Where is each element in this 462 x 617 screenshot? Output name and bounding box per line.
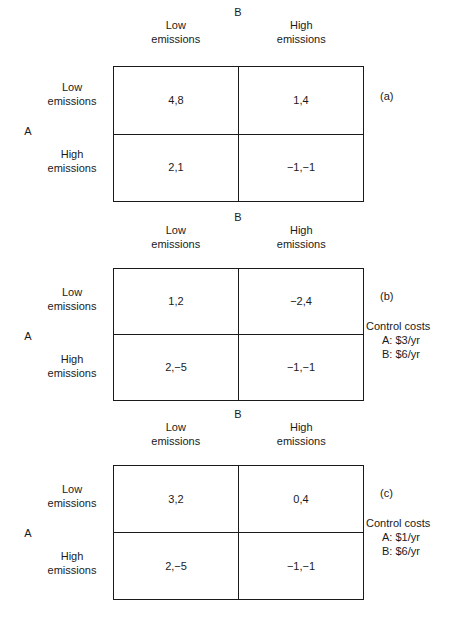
panel-caption-a: (a) bbox=[380, 90, 440, 103]
payoff-grid-b: 1,2 −2,4 2,−5 −1,−1 bbox=[113, 268, 364, 401]
row-header-line1: Low bbox=[38, 483, 106, 497]
payoff-grid-c: 3,2 0,4 2,−5 −1,−1 bbox=[113, 465, 364, 600]
column-header-line2: emissions bbox=[113, 435, 239, 449]
row-header-low-emissions-b: Low emissions bbox=[38, 286, 106, 313]
column-header-line2: emissions bbox=[239, 238, 365, 252]
table-row: 2,−5 −1,−1 bbox=[114, 335, 363, 400]
row-header-high-emissions-a: High emissions bbox=[38, 148, 106, 175]
row-header-high-emissions-c: High emissions bbox=[38, 550, 106, 577]
row-header-line1: High bbox=[38, 353, 106, 367]
payoff-cell-a-high-low: 2,1 bbox=[114, 135, 239, 202]
row-header-high-emissions-b: High emissions bbox=[38, 353, 106, 380]
table-row: 4,8 1,4 bbox=[114, 67, 363, 135]
row-header-line2: emissions bbox=[38, 300, 106, 314]
column-headers-b: Low emissions High emissions bbox=[113, 224, 364, 251]
payoff-cell-b-low-high: −2,4 bbox=[239, 269, 363, 334]
row-header-line1: Low bbox=[38, 286, 106, 300]
payoff-cell-c-low-high: 0,4 bbox=[239, 466, 363, 532]
column-header-line2: emissions bbox=[113, 238, 239, 252]
column-header-high-emissions-b: High emissions bbox=[239, 224, 365, 251]
row-header-line2: emissions bbox=[38, 162, 106, 176]
column-player-label-b: B bbox=[213, 211, 263, 224]
payoff-cell-a-low-low: 4,8 bbox=[114, 67, 239, 134]
control-costs-player-a: A: $1/yr bbox=[366, 530, 462, 544]
control-costs-c: Control costs A: $1/yr B: $6/yr bbox=[366, 516, 462, 558]
control-costs-title: Control costs bbox=[366, 319, 462, 333]
row-header-low-emissions-a: Low emissions bbox=[38, 81, 106, 108]
column-header-high-emissions-c: High emissions bbox=[239, 421, 365, 448]
payoff-cell-b-low-low: 1,2 bbox=[114, 269, 239, 334]
table-row: 2,1 −1,−1 bbox=[114, 135, 363, 202]
row-player-label-a: A bbox=[18, 125, 38, 138]
row-header-line2: emissions bbox=[38, 367, 106, 381]
payoff-cell-c-high-low: 2,−5 bbox=[114, 533, 239, 599]
control-costs-player-a: A: $3/yr bbox=[366, 333, 462, 347]
row-header-line1: Low bbox=[38, 81, 106, 95]
column-headers-a: Low emissions High emissions bbox=[113, 19, 364, 46]
control-costs-title: Control costs bbox=[366, 516, 462, 530]
row-header-line2: emissions bbox=[38, 95, 106, 109]
column-headers-c: Low emissions High emissions bbox=[113, 421, 364, 448]
column-header-low-emissions-c: Low emissions bbox=[113, 421, 239, 448]
row-header-line1: High bbox=[38, 148, 106, 162]
payoff-cell-c-high-high: −1,−1 bbox=[239, 533, 363, 599]
row-header-low-emissions-c: Low emissions bbox=[38, 483, 106, 510]
row-header-line2: emissions bbox=[38, 564, 106, 578]
table-row: 1,2 −2,4 bbox=[114, 269, 363, 335]
panel-caption-b: (b) bbox=[380, 290, 440, 303]
row-header-line1: High bbox=[38, 550, 106, 564]
control-costs-player-b: B: $6/yr bbox=[366, 347, 462, 361]
column-header-line1: Low bbox=[113, 19, 239, 33]
table-row: 2,−5 −1,−1 bbox=[114, 533, 363, 599]
payoff-cell-a-high-high: −1,−1 bbox=[239, 135, 363, 202]
column-header-line2: emissions bbox=[113, 33, 239, 47]
row-player-label-c: A bbox=[18, 527, 38, 540]
column-header-low-emissions-a: Low emissions bbox=[113, 19, 239, 46]
column-player-label-c: B bbox=[213, 408, 263, 421]
column-header-high-emissions-a: High emissions bbox=[239, 19, 365, 46]
panel-caption-c: (c) bbox=[380, 487, 440, 500]
payoff-matrix-figure: B Low emissions High emissions A Low emi… bbox=[0, 0, 462, 617]
column-header-low-emissions-b: Low emissions bbox=[113, 224, 239, 251]
payoff-cell-b-high-high: −1,−1 bbox=[239, 335, 363, 400]
row-header-line2: emissions bbox=[38, 497, 106, 511]
column-header-line2: emissions bbox=[239, 435, 365, 449]
payoff-cell-c-low-low: 3,2 bbox=[114, 466, 239, 532]
column-header-line1: High bbox=[239, 421, 365, 435]
column-header-line1: High bbox=[239, 19, 365, 33]
control-costs-player-b: B: $6/yr bbox=[366, 544, 462, 558]
row-player-label-b: A bbox=[18, 330, 38, 343]
column-header-line1: Low bbox=[113, 421, 239, 435]
control-costs-b: Control costs A: $3/yr B: $6/yr bbox=[366, 319, 462, 361]
payoff-grid-a: 4,8 1,4 2,1 −1,−1 bbox=[113, 66, 364, 202]
column-header-line1: High bbox=[239, 224, 365, 238]
table-row: 3,2 0,4 bbox=[114, 466, 363, 533]
column-header-line1: Low bbox=[113, 224, 239, 238]
column-player-label-a: B bbox=[213, 6, 263, 19]
payoff-cell-b-high-low: 2,−5 bbox=[114, 335, 239, 400]
payoff-cell-a-low-high: 1,4 bbox=[239, 67, 363, 134]
column-header-line2: emissions bbox=[239, 33, 365, 47]
